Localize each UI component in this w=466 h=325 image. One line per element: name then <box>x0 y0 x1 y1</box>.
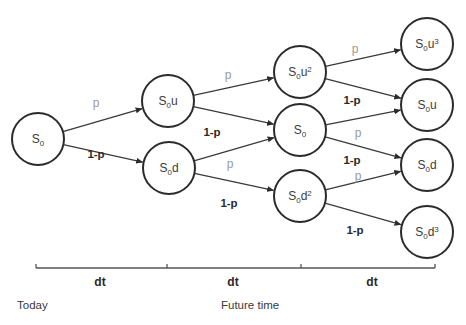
down-probability-label: 1-p <box>343 94 360 106</box>
down-probability-label: 1-p <box>87 148 104 160</box>
up-probability-label: p <box>355 169 362 183</box>
up-probability-label: p <box>227 157 234 171</box>
tree-node-n3d3: S0d3 <box>401 206 453 258</box>
tree-node-n3d: S0d <box>401 139 453 191</box>
edge-arrow <box>193 107 273 125</box>
tree-node-n3u3: S0u3 <box>401 18 453 70</box>
up-probability-label: p <box>355 126 362 140</box>
tree-node-n2uu: S0u2 <box>274 46 326 98</box>
time-label-future: Future time <box>221 299 279 311</box>
tree-node-n3u: S0u <box>401 79 453 131</box>
interval-dt-label: dt <box>94 275 105 289</box>
nodes-layer: S0S0uS0dS0u2S0S0d2S0u3S0uS0dS0d3 <box>12 18 453 258</box>
edge-arrow <box>325 137 401 158</box>
down-probability-label: 1-p <box>203 126 220 138</box>
edge-arrow <box>194 138 274 161</box>
edge-arrow <box>325 50 400 67</box>
edge-arrow <box>325 79 401 99</box>
tree-node-n2ud: S0 <box>274 104 326 156</box>
edge-arrow <box>193 78 273 96</box>
edge-arrow <box>63 109 142 132</box>
up-probability-label: p <box>93 96 100 110</box>
interval-dt-label: dt <box>366 275 377 289</box>
edge-arrow <box>325 171 401 189</box>
down-probability-label: 1-p <box>346 224 363 236</box>
tree-node-n2dd: S0d2 <box>274 170 326 222</box>
edge-arrow <box>325 203 401 225</box>
up-probability-label: p <box>225 68 232 82</box>
up-probability-label: p <box>352 42 359 56</box>
binomial-tree-diagram: S0S0uS0dS0u2S0S0d2S0u3S0uS0dS0d3 p1-pp1-… <box>0 0 466 325</box>
down-probability-label: 1-p <box>343 154 360 166</box>
edge-arrow <box>194 173 273 190</box>
tree-node-n1u: S0u <box>142 75 194 127</box>
time-label-today: Today <box>17 299 48 311</box>
interval-dt-label: dt <box>227 275 238 289</box>
tree-node-n0: S0 <box>12 113 64 165</box>
tree-node-n1d: S0d <box>143 142 195 194</box>
timeline: dtdtdtTodayFuture time <box>17 264 435 311</box>
down-probability-label: 1-p <box>220 197 237 209</box>
edge-arrow <box>326 110 401 125</box>
